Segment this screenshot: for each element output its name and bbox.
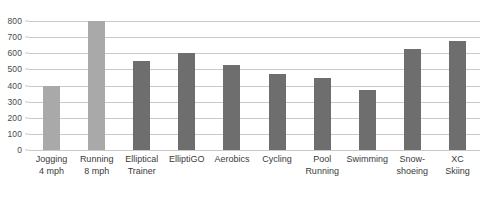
x-axis-label-line2: 8 mph xyxy=(80,166,114,178)
x-axis-label-line1: Jogging xyxy=(36,154,68,164)
bar-chart: 0100200300400500600700800 Jogging4 mphRu… xyxy=(0,0,488,202)
x-axis-label-line2: shoeing xyxy=(397,166,429,178)
x-axis-label-line2: 4 mph xyxy=(36,166,68,178)
x-axis-category-label: Swimming xyxy=(346,154,388,166)
y-axis-tick-label: 400 xyxy=(8,81,22,91)
x-axis-category-label: Aerobics xyxy=(214,154,249,166)
y-axis-tick-label: 600 xyxy=(8,48,22,58)
y-axis-tick-label: 500 xyxy=(8,64,22,74)
x-axis-category-label: EllipticalTrainer xyxy=(125,154,158,177)
x-axis-label-line2: Running xyxy=(305,166,339,178)
x-axis-label-line1: Aerobics xyxy=(214,154,249,164)
x-axis-category-label: Running8 mph xyxy=(80,154,114,177)
gridline xyxy=(29,150,480,151)
x-axis-category-label: Cycling xyxy=(262,154,292,166)
bar xyxy=(178,53,195,150)
x-axis-label-line1: ElliptiGO xyxy=(169,154,205,164)
bar-series xyxy=(29,21,480,150)
bar xyxy=(269,74,286,150)
x-axis-label-line1: Pool xyxy=(313,154,331,164)
x-axis-category-label: XCSkiing xyxy=(445,154,470,177)
x-axis-label-line1: Snow- xyxy=(400,154,426,164)
y-axis-tick-label: 300 xyxy=(8,97,22,107)
bar xyxy=(88,21,105,150)
bar xyxy=(314,78,331,150)
plot-area xyxy=(29,21,480,150)
y-axis-tick-label: 200 xyxy=(8,113,22,123)
x-axis: Jogging4 mphRunning8 mphEllipticalTraine… xyxy=(29,154,480,202)
bar xyxy=(404,49,421,150)
x-axis-label-line1: Cycling xyxy=(262,154,292,164)
x-axis-category-label: PoolRunning xyxy=(305,154,339,177)
x-axis-category-label: Snow-shoeing xyxy=(397,154,429,177)
y-axis-tick-label: 700 xyxy=(8,32,22,42)
x-axis-category-label: ElliptiGO xyxy=(169,154,205,166)
bar xyxy=(223,65,240,150)
chart-title-cropped xyxy=(0,0,488,3)
y-axis-tick-label: 800 xyxy=(8,16,22,26)
bar xyxy=(359,90,376,150)
x-axis-label-line1: Elliptical xyxy=(125,154,158,164)
x-axis-label-line2: Skiing xyxy=(445,166,470,178)
y-axis-tick-label: 100 xyxy=(8,129,22,139)
y-axis: 0100200300400500600700800 xyxy=(0,21,29,150)
x-axis-label-line2: Trainer xyxy=(125,166,158,178)
bar xyxy=(133,61,150,150)
x-axis-label-line1: Swimming xyxy=(346,154,388,164)
bar xyxy=(43,86,60,151)
x-axis-category-label: Jogging4 mph xyxy=(36,154,68,177)
x-axis-label-line1: Running xyxy=(80,154,114,164)
x-axis-label-line1: XC xyxy=(451,154,464,164)
y-axis-tick-label: 0 xyxy=(17,145,22,155)
bar xyxy=(449,41,466,150)
